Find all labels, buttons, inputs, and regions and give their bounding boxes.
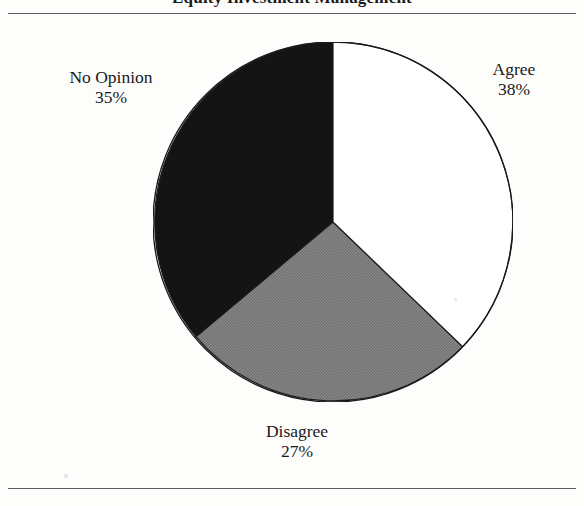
page-title: Equity Investment Management xyxy=(0,0,584,8)
pie-chart-figure: Equity Investment Management No Opinion … xyxy=(0,0,584,506)
scan-speckle xyxy=(64,474,68,478)
scan-speckle xyxy=(454,298,457,301)
pie-label-no-opinion-name: No Opinion xyxy=(38,68,184,88)
horizontal-rule-top xyxy=(8,13,576,14)
pie-label-disagree-value: 27% xyxy=(232,442,362,462)
pie-label-disagree: Disagree 27% xyxy=(232,422,362,461)
pie-label-agree: Agree 38% xyxy=(458,60,570,99)
pie-label-agree-value: 38% xyxy=(458,80,570,100)
horizontal-rule-bottom xyxy=(8,488,576,489)
pie-label-agree-name: Agree xyxy=(458,60,570,80)
pie-label-disagree-name: Disagree xyxy=(232,422,362,442)
pie-label-no-opinion-value: 35% xyxy=(38,88,184,108)
pie-label-no-opinion: No Opinion 35% xyxy=(38,68,184,107)
